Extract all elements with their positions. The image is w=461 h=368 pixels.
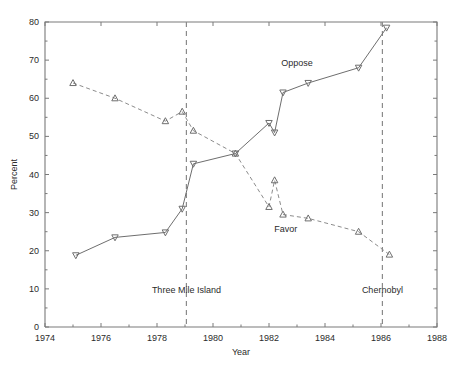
axes-group: [45, 22, 437, 327]
y-tick-label: 30: [29, 208, 39, 218]
series-label-oppose: Oppose: [281, 58, 313, 68]
data-point-favor: [280, 211, 286, 217]
x-tick-label: 1980: [203, 333, 223, 343]
x-tick-label: 1976: [91, 333, 111, 343]
x-tick-label: 1982: [259, 333, 279, 343]
y-tick-label: 40: [29, 170, 39, 180]
series-label-favor: Favor: [274, 224, 297, 234]
x-tick-label: 1974: [35, 333, 55, 343]
y-axis-title: Percent: [9, 158, 19, 190]
x-tick-label: 1988: [427, 333, 447, 343]
chart-canvas: 0102030405060708019741976197819801982198…: [0, 0, 461, 368]
series-line-oppose: [76, 28, 387, 256]
y-tick-label: 0: [34, 322, 39, 332]
y-tick-label: 50: [29, 131, 39, 141]
x-axis-title: Year: [232, 347, 250, 357]
y-tick-label: 10: [29, 284, 39, 294]
series-group: [70, 25, 393, 259]
series-line-favor: [73, 83, 389, 255]
y-tick-label: 60: [29, 93, 39, 103]
y-tick-label: 80: [29, 17, 39, 27]
x-tick-label: 1984: [315, 333, 335, 343]
y-tick-label: 20: [29, 246, 39, 256]
x-tick-label: 1978: [147, 333, 167, 343]
plot-frame: [45, 22, 437, 327]
nuclear-power-opinion-chart: 0102030405060708019741976197819801982198…: [0, 0, 461, 368]
data-point-favor: [70, 80, 76, 86]
event-label: Chernobyl: [362, 285, 403, 295]
event-label: Three Mile Island: [152, 285, 221, 295]
data-point-oppose: [73, 253, 79, 259]
labels-group: 0102030405060708019741976197819801982198…: [9, 17, 447, 357]
y-tick-label: 70: [29, 55, 39, 65]
x-tick-label: 1986: [371, 333, 391, 343]
